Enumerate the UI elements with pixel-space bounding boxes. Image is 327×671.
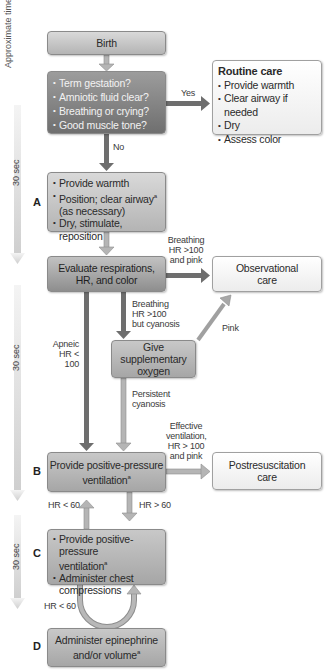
step-label-d: D — [33, 640, 41, 652]
oxygen-line1: Give supplementary — [112, 341, 195, 365]
edge-label-breathing-pink: Breathing HR >100 and pink — [166, 235, 206, 265]
oxygen-line2: oxygen — [137, 365, 170, 377]
edge-label-no: No — [113, 142, 124, 152]
timeline-segment-2: 30 sec — [11, 344, 21, 371]
step-c-item: Administer chest — [53, 572, 160, 584]
step-a-item-cont: (as necessary) — [53, 205, 160, 218]
step-b-line1: Provide positive-pressure — [50, 459, 163, 471]
step-a-box: Provide warmth Position; clear airwaya (… — [47, 172, 166, 232]
edge-label-apneic: Apneic HR < 100 — [44, 339, 79, 369]
step-a-item: Position; clear airwaya — [53, 190, 160, 205]
step-b-line2: ventilation — [82, 473, 127, 485]
step-d-line1: Administer epinephrine — [55, 634, 158, 646]
step-a-item: Provide warmth — [53, 177, 160, 190]
edge-label-pink: Pink — [222, 323, 239, 333]
timeline-segment-1: 30 sec — [11, 159, 21, 186]
assessment-item: Term gestation? — [53, 76, 160, 90]
routine-care-item: Clear airway if needed — [218, 92, 316, 119]
edge-label-yes: Yes — [181, 88, 195, 98]
observational-care-box: Observational care — [212, 256, 322, 292]
routine-care-item: Dry — [218, 119, 316, 133]
step-label-a: A — [33, 196, 41, 208]
postresuscitation-care-box: Postresuscitation care — [212, 452, 322, 490]
edge-label-hr-gt-60: HR > 60 — [139, 500, 171, 510]
step-label-b: B — [33, 465, 41, 477]
step-b-box: Provide positive-pressure ventilationa — [47, 452, 166, 492]
step-d-line2: and/or volume — [73, 649, 137, 661]
assessment-item: Good muscle tone? — [53, 118, 160, 132]
assessment-item: Amniotic fluid clear? — [53, 90, 160, 104]
step-d-box: Administer epinephrine and/or volumea — [47, 628, 166, 667]
routine-care-item: Provide warmth — [218, 79, 316, 93]
postresuscitation-line1: Postresuscitation — [229, 459, 306, 471]
evaluate-box: Evaluate respirations, HR, and color — [47, 256, 166, 292]
routine-care-box: Routine care Provide warmth Clear airway… — [212, 60, 322, 135]
postresuscitation-line2: care — [257, 471, 277, 483]
step-label-c: C — [33, 547, 41, 559]
observational-line1: Observational — [236, 262, 298, 274]
assessment-item: Breathing or crying? — [53, 104, 160, 118]
step-a-item: Dry, stimulate, reposition — [53, 217, 160, 242]
supplementary-oxygen-box: Give supplementary oxygen — [111, 340, 196, 378]
step-c-box: Provide positive-pressure ventilationa A… — [47, 529, 166, 585]
birth-label: Birth — [96, 37, 117, 49]
edge-label-hr-lt-60-up: HR < 60 — [48, 500, 80, 510]
edge-label-persistent-cyanosis: Persistent cyanosis — [132, 389, 170, 409]
timeline-segment-3: 30 sec — [11, 543, 21, 570]
edge-label-hr-lt-60-loop: HR < 60 — [44, 601, 76, 611]
routine-care-item: Assess color — [218, 133, 316, 147]
observational-line2: care — [257, 274, 277, 286]
timeline-bar-2 — [10, 285, 25, 501]
evaluate-line1: Evaluate respirations, — [58, 262, 155, 274]
assessment-box: Term gestation? Amniotic fluid clear? Br… — [47, 71, 166, 134]
step-c-item: Provide positive-pressure — [53, 533, 160, 557]
edge-label-breathing-cyanosis: Breathing HR >100 but cyanosis — [132, 299, 180, 329]
edge-label-effective-ventilation: Effective ventilation, HR > 100 and pink — [166, 421, 206, 461]
evaluate-line2: HR, and color — [76, 274, 138, 286]
birth-box: Birth — [47, 31, 166, 55]
routine-care-title: Routine care — [218, 65, 282, 77]
